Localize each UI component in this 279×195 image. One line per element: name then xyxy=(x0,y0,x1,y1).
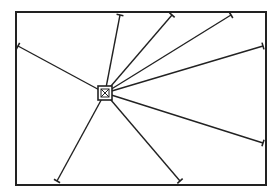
spoke-line xyxy=(105,15,172,93)
spoke-end-tick xyxy=(262,43,264,50)
spoke-line xyxy=(57,93,105,181)
spoke-line xyxy=(18,46,105,93)
star-network-diagram xyxy=(0,0,279,195)
spoke-line xyxy=(105,15,120,93)
hub-node-icon xyxy=(98,86,112,100)
spoke-end-tick xyxy=(262,140,264,147)
spoke-line xyxy=(105,15,231,93)
spoke-line xyxy=(105,93,180,181)
spoke-line xyxy=(105,46,263,93)
spoke-lines xyxy=(16,12,264,183)
diagram-frame xyxy=(16,12,266,185)
spoke-end-tick xyxy=(117,14,124,15)
spoke-line xyxy=(105,93,263,143)
